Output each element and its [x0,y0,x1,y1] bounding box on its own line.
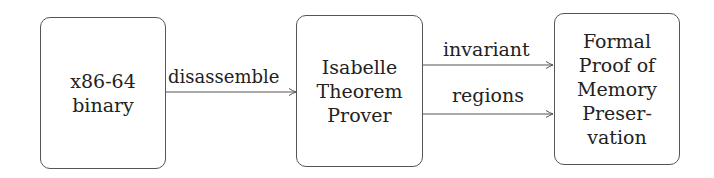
node-text: binary [70,93,136,117]
node-text: Formal [577,29,657,53]
edge-label-disassemble: disassemble [168,66,279,88]
edge-label-regions: regions [452,84,524,106]
node-text: Prover [317,103,403,127]
node-text: Memory [577,77,657,101]
node-text: Theorem [317,79,403,103]
node-text: vation [577,125,657,149]
node-text: Proof of [577,53,657,77]
node-x86-64-binary: x86-64 binary [40,17,166,169]
node-text: x86-64 [70,69,136,93]
edge-label-invariant: invariant [443,38,530,60]
node-text: Preser- [577,101,657,125]
node-formal-proof: Formal Proof of Memory Preser- vation [554,13,680,165]
node-isabelle-theorem-prover: Isabelle Theorem Prover [296,15,423,167]
node-text: Isabelle [317,55,403,79]
